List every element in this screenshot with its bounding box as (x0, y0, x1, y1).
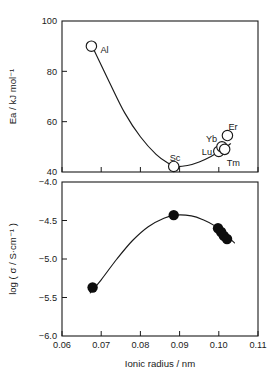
y-tick-label: 80 (47, 67, 57, 77)
data-point-label: Lu (202, 147, 212, 157)
data-point-label: Yb (206, 134, 217, 144)
y-tick-label: −5.0 (39, 254, 57, 264)
y-axis-title: Ea / kJ mol⁻¹ (7, 69, 18, 125)
data-point-marker[interactable] (222, 130, 232, 140)
y-tick-label: 40 (47, 167, 57, 177)
two-panel-figure: 406080100AlScLuYbTmErEa / kJ mol⁻¹ 0.060… (0, 0, 279, 381)
data-point-marker[interactable] (87, 282, 97, 292)
conductivity-panel: 0.060.070.080.090.100.11−6.0−5.5−5.0−4.5… (7, 177, 267, 369)
y-tick-label: −6.0 (39, 331, 57, 341)
figure-root: 406080100AlScLuYbTmErEa / kJ mol⁻¹ 0.060… (0, 0, 279, 381)
y-tick-label: −5.5 (39, 293, 57, 303)
x-tick-label: 0.06 (53, 340, 71, 350)
trend-curve (90, 215, 234, 293)
x-tick-label: 0.07 (92, 340, 110, 350)
data-point-label: Sc (170, 153, 181, 163)
data-point-label: Al (100, 45, 108, 55)
data-point-marker[interactable] (169, 210, 179, 220)
data-point-marker[interactable] (86, 41, 96, 51)
data-point-marker[interactable] (222, 234, 232, 244)
x-tick-label: 0.11 (249, 340, 266, 350)
y-tick-label: 100 (42, 16, 57, 26)
data-point-label: Er (228, 122, 237, 132)
y-tick-label: −4.0 (39, 177, 57, 187)
y-tick-label: −4.5 (39, 216, 57, 226)
x-tick-label: 0.08 (131, 340, 149, 350)
data-point-marker[interactable] (169, 161, 179, 171)
plot-frame (62, 182, 258, 336)
y-axis-title: log ( σ / S·cm⁻¹ ) (7, 223, 18, 295)
data-point-label: Tm (227, 158, 241, 168)
x-tick-label: 0.09 (171, 340, 189, 350)
x-tick-label: 0.10 (210, 340, 228, 350)
data-point-marker[interactable] (219, 144, 229, 154)
x-axis-title: Ionic radius / nm (125, 358, 195, 369)
y-tick-label: 60 (47, 117, 57, 127)
activation-energy-panel: 406080100AlScLuYbTmErEa / kJ mol⁻¹ (7, 16, 258, 177)
